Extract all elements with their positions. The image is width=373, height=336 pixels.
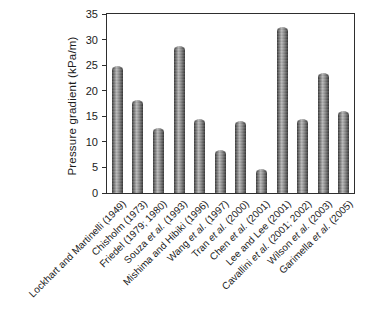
y-tick-label: 30	[68, 33, 98, 47]
y-tick-label: 15	[68, 109, 98, 123]
y-tick-label: 5	[68, 160, 98, 174]
bar-10	[297, 119, 308, 193]
y-tick-mark	[102, 167, 106, 168]
bar-chart-figure: Pressure gradient (kPa/m) 05101520253035…	[0, 0, 373, 336]
y-tick-mark	[102, 90, 106, 91]
bar-12	[338, 111, 349, 193]
bar-6	[215, 150, 226, 194]
y-tick-mark	[102, 141, 106, 142]
bar-9	[277, 27, 288, 193]
bar-5	[194, 119, 205, 193]
y-tick-mark	[102, 65, 106, 66]
y-tick-mark	[102, 116, 106, 117]
bar-8	[256, 169, 267, 194]
y-tick-label: 25	[68, 58, 98, 72]
y-tick-label: 10	[68, 135, 98, 149]
bar-7	[235, 121, 246, 193]
y-tick-label: 20	[68, 84, 98, 98]
y-tick-mark	[102, 39, 106, 40]
y-tick-mark	[102, 193, 106, 194]
y-tick-mark	[102, 14, 106, 15]
y-tick-label: 0	[68, 186, 98, 200]
bar-3	[153, 128, 164, 194]
bar-11	[318, 73, 329, 193]
bar-1	[112, 66, 123, 193]
bar-2	[132, 100, 143, 193]
bar-4	[174, 46, 185, 193]
plot-area	[106, 13, 355, 194]
y-tick-label: 35	[68, 7, 98, 21]
